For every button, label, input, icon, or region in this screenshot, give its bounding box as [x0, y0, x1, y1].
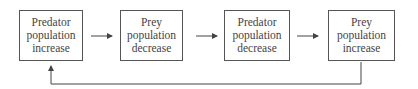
feedback-arrow-n4-n1: [51, 62, 361, 84]
node-label: Prey population increase: [337, 16, 386, 55]
node-predator-decrease: Predator population decrease: [224, 10, 290, 61]
node-label: Prey population decrease: [127, 16, 176, 55]
node-prey-decrease: Prey population decrease: [120, 10, 183, 61]
node-label: Predator population increase: [26, 16, 75, 55]
node-label: Predator population decrease: [232, 16, 281, 55]
node-predator-increase: Predator population increase: [19, 10, 83, 61]
node-prey-increase: Prey population increase: [328, 10, 395, 61]
